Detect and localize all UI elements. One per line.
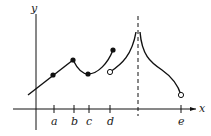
open-point-d: [107, 69, 112, 74]
filled-point-c: [85, 71, 90, 76]
linear-segment: [28, 60, 73, 95]
x-axis-label: x: [199, 102, 206, 115]
y-axis-label: y: [30, 2, 38, 15]
x-axis-arrow: [190, 107, 196, 111]
filled-point-a: [50, 72, 55, 77]
tick-d: d: [107, 105, 114, 128]
function-graph: x y a b c d e: [0, 0, 211, 136]
filled-point-left-d: [110, 47, 115, 52]
svg-text:a: a: [51, 115, 58, 128]
tick-e: e: [178, 105, 185, 128]
svg-text:e: e: [178, 115, 185, 128]
tick-a: a: [51, 105, 58, 128]
open-point-e: [178, 92, 183, 97]
svg-text:c: c: [86, 115, 92, 128]
tick-c: c: [86, 105, 92, 128]
curve-cusp-to-e: [140, 32, 181, 95]
curve-b-to-d: [73, 50, 113, 74]
tick-b: b: [71, 105, 78, 128]
graph-canvas: x y a b c d e: [0, 0, 211, 136]
filled-point-b: [70, 57, 75, 62]
svg-text:d: d: [107, 115, 114, 128]
svg-text:b: b: [71, 115, 78, 128]
